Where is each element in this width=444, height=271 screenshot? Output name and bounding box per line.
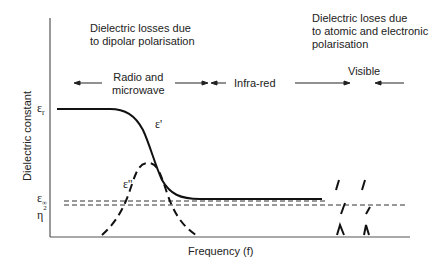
radio-microwave-label: Radio and microwave — [112, 71, 165, 97]
eps-double-prime-label: ε'' — [123, 177, 132, 192]
dipolar-losses-line-2: to dipolar polarisation — [90, 35, 195, 48]
atomic-losses-line-2: to atomic and electronic — [312, 25, 428, 38]
atomic-losses-line-1: Dielectric loses due — [312, 12, 428, 25]
axis-break-marks — [336, 180, 370, 235]
y-axis-label: Dielectric constant — [21, 81, 33, 191]
x-axis-label: Frequency (f) — [188, 245, 253, 258]
atomic-losses-line-3: polarisation — [312, 38, 428, 51]
eta-squared-symbol: η2 — [37, 208, 47, 223]
radio-label-line-2: microwave — [112, 84, 165, 97]
visible-label: Visible — [348, 65, 380, 78]
eps-r-subscript: r — [42, 108, 45, 117]
eps-r-symbol: εr — [37, 101, 45, 117]
eps-prime-label: ε' — [155, 117, 162, 132]
atomic-electronic-losses-label: Dielectric loses due to atomic and elect… — [312, 12, 428, 51]
eta-superscript: 2 — [43, 204, 47, 212]
infrared-label: Infra-red — [234, 77, 276, 90]
radio-label-line-1: Radio and — [112, 71, 165, 84]
eps-double-prime-curve — [102, 163, 196, 235]
dipolar-losses-line-1: Dielectric losses due — [90, 22, 195, 35]
eps-prime-curve — [57, 109, 322, 199]
dipolar-losses-label: Dielectric losses due to dipolar polaris… — [90, 22, 195, 48]
